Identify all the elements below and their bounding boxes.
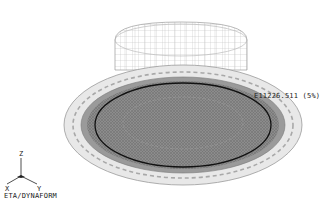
tool-cup-wireframe [115,22,247,70]
graphics-viewport[interactable]: E11226.511 (5%) Z X Y ETA/DYNAFORM [0,0,322,213]
software-logo-text: ETA/DYNAFORM [4,192,57,200]
result-annotation: E11226.511 (5%) [254,92,320,100]
triad-axes-icon [0,150,50,190]
axis-z-label: Z [19,150,23,158]
blank-mesh [87,81,279,169]
